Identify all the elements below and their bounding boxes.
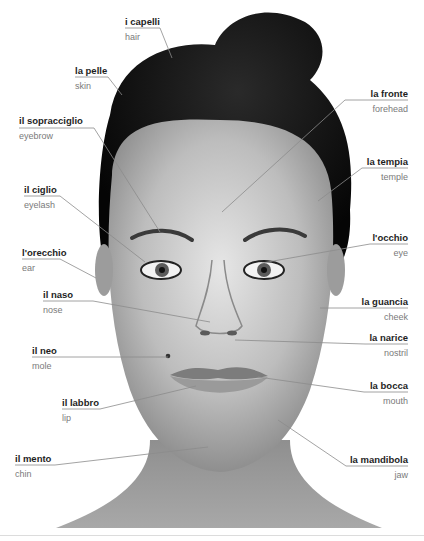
label-mole: il neo mole [32,346,57,371]
label-italian: i capelli [125,17,160,30]
label-english: forehead [371,102,408,114]
label-cheek: la guancia cheek [362,297,408,322]
label-hair: i capelli hair [125,17,160,42]
label-eyelash: il ciglio eyelash [24,185,57,210]
label-italian: la pelle [75,66,107,79]
label-english: chin [15,467,51,479]
label-italian: il naso [43,290,73,303]
label-eyebrow: il sopracciglio eyebrow [19,116,83,141]
label-english: cheek [362,310,408,322]
label-english: eyelash [24,198,57,210]
label-italian: il sopracciglio [19,116,83,129]
label-english: temple [367,170,408,182]
label-english: ear [22,261,67,273]
label-lip: il labbro lip [62,398,99,423]
label-english: skin [75,79,107,91]
label-english: eye [372,246,408,258]
label-english: hair [125,30,160,42]
label-eye: l'occhio eye [372,233,408,258]
label-italian: la tempia [367,157,408,170]
mole-shape [166,354,171,359]
ear-left-shape [95,244,113,296]
label-italian: il mento [15,454,51,467]
label-skin: la pelle skin [75,66,107,91]
label-mouth: la bocca mouth [370,381,408,406]
label-forehead: la fronte forehead [371,89,408,114]
label-nose: il naso nose [43,290,73,315]
label-italian: la bocca [370,381,408,394]
nostril-right-shape [227,331,237,336]
label-english: nose [43,303,73,315]
label-italian: la fronte [371,89,408,102]
label-temple: la tempia temple [367,157,408,182]
label-english: nostril [369,346,408,358]
label-nostril: la narice nostril [369,333,408,358]
label-english: mouth [370,394,408,406]
label-jaw: la mandibola jaw [350,455,408,480]
label-english: lip [62,411,99,423]
label-italian: l'occhio [372,233,408,246]
label-english: mole [32,359,57,371]
label-italian: il ciglio [24,185,57,198]
label-italian: il neo [32,346,57,359]
label-italian: l'orecchio [22,248,67,261]
label-italian: la mandibola [350,455,408,468]
face-shape [109,120,334,472]
bottom-divider [0,535,424,536]
nostril-left-shape [200,331,210,336]
face-diagram: i capelli hair la pelle skin il sopracci… [0,0,424,541]
label-italian: il labbro [62,398,99,411]
label-chin: il mento chin [15,454,51,479]
label-ear: l'orecchio ear [22,248,67,273]
label-italian: la guancia [362,297,408,310]
label-italian: la narice [369,333,408,346]
label-english: jaw [350,468,408,480]
label-english: eyebrow [19,129,83,141]
ear-right-shape [327,244,345,296]
